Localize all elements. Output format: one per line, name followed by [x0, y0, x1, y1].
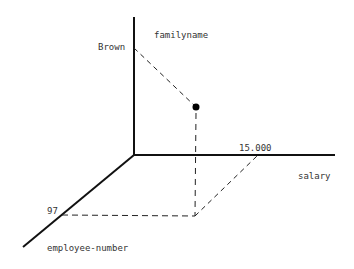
salary-axis-label: salary	[298, 171, 331, 181]
diagram-canvas: familyname Brown 15.000 salary 97 employ…	[0, 0, 354, 269]
brown-tick-label: Brown	[98, 42, 125, 52]
projection-point-down	[195, 113, 196, 216]
data-point	[193, 104, 200, 111]
projection-brown-to-point	[134, 48, 196, 107]
employee-number-axis-label: employee-number	[47, 243, 128, 253]
salary-tick-label: 15.000	[239, 143, 272, 153]
employee-number-axis	[23, 155, 134, 247]
familyname-axis-label: familyname	[154, 30, 208, 40]
projection-base-to-15000	[195, 156, 257, 216]
employee-number-tick-label: 97	[47, 206, 58, 216]
axes-drawing	[0, 0, 354, 269]
projection-97-to-base	[62, 215, 195, 216]
